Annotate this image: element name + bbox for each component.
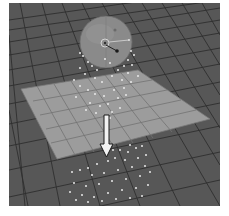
sphere-emitter[interactable] xyxy=(80,16,132,68)
scene-canvas[interactable] xyxy=(9,3,220,206)
3d-viewport[interactable] xyxy=(9,3,220,206)
